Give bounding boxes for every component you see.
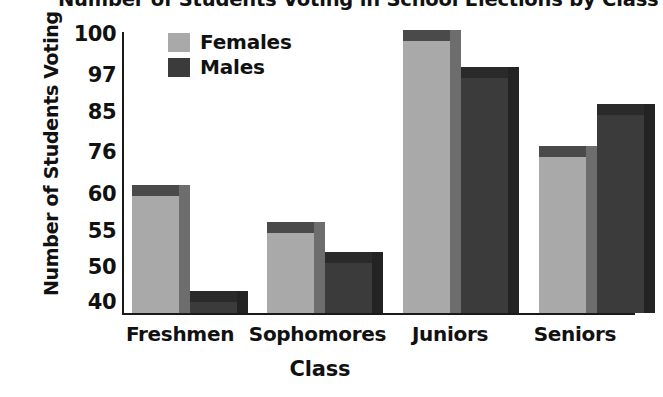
y-tick-label: 85 bbox=[0, 100, 116, 124]
bar-face bbox=[539, 152, 586, 313]
bar-sophomores-males bbox=[325, 258, 372, 313]
bar-side-face bbox=[237, 291, 248, 313]
bar-sophomores-females bbox=[267, 228, 314, 313]
y-tick-label: 97 bbox=[0, 63, 116, 87]
bar-side-face bbox=[586, 146, 597, 313]
bar-face bbox=[597, 110, 644, 313]
x-tick-label-freshmen: Freshmen bbox=[122, 322, 238, 346]
legend-swatch-icon bbox=[168, 58, 190, 77]
x-axis-line bbox=[122, 313, 635, 315]
bar-seniors-males bbox=[597, 110, 644, 313]
y-tick-label: 100 bbox=[0, 22, 116, 46]
x-tick-label-seniors: Seniors bbox=[520, 322, 630, 346]
bar-freshmen-females bbox=[132, 191, 179, 313]
y-tick-label: 50 bbox=[0, 255, 116, 279]
bar-top-face bbox=[325, 252, 372, 263]
bar-side-face bbox=[179, 185, 190, 313]
legend: Females Males bbox=[168, 30, 292, 80]
legend-label: Males bbox=[200, 55, 265, 80]
bar-juniors-females bbox=[403, 36, 450, 313]
bar-face bbox=[267, 228, 314, 313]
x-tick-label-sophomores: Sophomores bbox=[245, 322, 390, 346]
legend-swatch-icon bbox=[168, 33, 190, 52]
bar-top-face bbox=[597, 104, 644, 115]
bar-face bbox=[461, 73, 508, 313]
y-tick-label: 60 bbox=[0, 182, 116, 206]
y-tick-label: 76 bbox=[0, 140, 116, 164]
bar-top-face bbox=[190, 291, 237, 302]
bar-seniors-females bbox=[539, 152, 586, 313]
bar-face bbox=[325, 258, 372, 313]
bar-face bbox=[132, 191, 179, 313]
bar-side-face bbox=[372, 252, 383, 313]
bar-side-face bbox=[508, 67, 519, 313]
bar-face bbox=[403, 36, 450, 313]
bar-freshmen-males bbox=[190, 297, 237, 313]
bar-side-face bbox=[314, 222, 325, 313]
legend-item-males: Males bbox=[168, 55, 292, 80]
x-axis-title: Class bbox=[0, 357, 640, 381]
bar-side-face bbox=[450, 30, 461, 313]
bar-top-face bbox=[539, 146, 586, 157]
bar-top-face bbox=[403, 30, 450, 41]
bar-top-face bbox=[461, 67, 508, 78]
legend-item-females: Females bbox=[168, 30, 292, 55]
legend-label: Females bbox=[200, 30, 292, 55]
bar-top-face bbox=[132, 185, 179, 196]
bar-side-face bbox=[644, 104, 655, 313]
y-axis-line bbox=[122, 32, 124, 315]
bar-juniors-males bbox=[461, 73, 508, 313]
y-tick-label: 40 bbox=[0, 290, 116, 314]
y-tick-label: 55 bbox=[0, 219, 116, 243]
bar-top-face bbox=[267, 222, 314, 233]
x-tick-label-juniors: Juniors bbox=[398, 322, 502, 346]
